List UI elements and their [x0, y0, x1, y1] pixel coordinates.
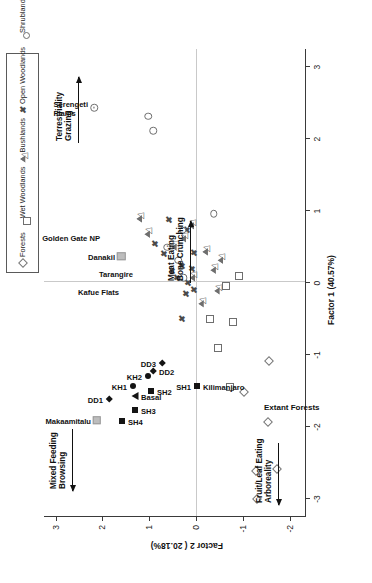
point-label: KH1 — [112, 382, 127, 391]
y-axis-title: Factor 2 ( 20.18%) — [151, 541, 223, 551]
point-label: KH2 — [127, 372, 142, 381]
y-tick — [243, 517, 244, 521]
point-label: Golden Gate NP — [42, 234, 100, 243]
group-label-extant-forests: Extant Forests — [264, 402, 320, 411]
x-tick-label: -3 — [312, 489, 322, 509]
legend-item-shrublands: Shrublands — [18, 0, 27, 44]
y-tick-label: -1 — [238, 525, 248, 539]
x-tick-label: 0 — [312, 273, 322, 293]
open-diamond-icon — [18, 259, 27, 268]
y-tick — [56, 517, 57, 521]
point-label: Danakil — [88, 253, 115, 262]
point-label: DD3 — [141, 359, 156, 368]
legend-item-bushlands: △Bushlands — [18, 115, 27, 164]
y-tick-label: 3 — [51, 525, 61, 539]
x-tick-label: 3 — [312, 57, 322, 77]
x-cross-icon: ✖ — [18, 106, 27, 115]
x-tick-label: -2 — [312, 417, 322, 437]
y-tick-label: 2 — [97, 525, 107, 539]
y-tick — [102, 517, 103, 521]
x-tick — [306, 210, 310, 211]
open-square-icon — [18, 220, 27, 229]
point-label: Makaamitalu — [45, 417, 91, 426]
point-label: Tarangire — [99, 270, 133, 279]
x-tick — [306, 354, 310, 355]
x-tick — [306, 138, 310, 139]
x-axis-title: Factor 1 (40.57%) — [326, 255, 336, 325]
open-triangle-icon: △ — [18, 154, 27, 163]
legend-item-open-woodlands: ✖Open Woodlands — [18, 44, 27, 115]
point-label: Kafue Flats — [78, 287, 119, 296]
legend-item-label: Forests — [18, 232, 27, 257]
arrow-head-right-icon — [76, 76, 82, 83]
y-tick-label: 0 — [191, 525, 201, 539]
y-tick — [196, 517, 197, 521]
legend-item-label: Bushlands — [18, 118, 27, 153]
x-tick — [306, 66, 310, 67]
annotation-terrestriality-grazing-text: TerrestrialityGrazing — [56, 92, 74, 141]
legend-item-forests: Forests — [18, 229, 27, 268]
point-label: Kilimanjaro — [203, 383, 244, 392]
annotation-mixed-feeding-text: Mixed FeedingBrowsing — [50, 432, 68, 489]
x-tick — [306, 498, 310, 499]
x-tick — [306, 426, 310, 427]
rotated-figure-wrapper: △△△△△△△△△✖✖✖✖✖✖✖✖✖✖✖✖✖△△ -3-2-10123-2-10… — [0, 0, 372, 583]
y-tick-label: 1 — [144, 525, 154, 539]
x-tick-label: 2 — [312, 129, 322, 149]
x-tick — [306, 282, 310, 283]
x-tick-label: -1 — [312, 345, 322, 365]
legend-item-label: Shrublands — [18, 0, 27, 33]
annotation-meat-eating-text: Meat EatingBone Crunching — [168, 217, 186, 281]
open-circle-icon — [18, 35, 27, 44]
legend-item-label: Wet Woodlands — [18, 166, 27, 218]
legend-box: ForestsWet Woodlands△Bushlands✖Open Wood… — [6, 53, 39, 273]
arrow-head-left-icon — [70, 485, 76, 492]
point-label: SH4 — [128, 417, 143, 426]
point-label: SH2 — [157, 388, 172, 397]
y-tick — [290, 517, 291, 521]
y-tick — [149, 517, 150, 521]
point-label: DD1 — [88, 395, 103, 404]
point-label: SH1 — [176, 383, 191, 392]
factor-scatter-figure: △△△△△△△△△✖✖✖✖✖✖✖✖✖✖✖✖✖△△ -3-2-10123-2-10… — [0, 0, 372, 583]
y-tick-label: -2 — [285, 525, 295, 539]
arrow-head-left-icon — [276, 499, 282, 506]
arrow-head-right-icon — [188, 220, 194, 227]
point-label: DD2 — [159, 368, 174, 377]
point-label: SH3 — [141, 407, 156, 416]
x-tick-label: 1 — [312, 201, 322, 221]
annotation-fruit-leaf-eating-text: Fruit/Leaf EatingArboreality — [256, 438, 274, 503]
legend-item-wet-woodlands: Wet Woodlands — [18, 163, 27, 229]
legend-item-label: Open Woodlands — [18, 47, 27, 104]
zero-line-horizontal — [196, 49, 197, 516]
legend-items: ForestsWet Woodlands△Bushlands✖Open Wood… — [7, 54, 38, 272]
